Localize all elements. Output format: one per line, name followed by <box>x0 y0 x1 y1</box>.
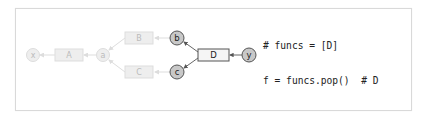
node-C: C <box>125 66 153 78</box>
code-line: # funcs = [D] <box>263 40 419 52</box>
code-line: ... <box>263 110 419 116</box>
svg-text:B: B <box>136 34 142 43</box>
node-a: a <box>97 49 110 62</box>
svg-text:C: C <box>136 68 142 77</box>
node-B: B <box>125 32 153 44</box>
node-D: D <box>198 49 229 61</box>
svg-text:y: y <box>246 50 251 60</box>
svg-text:a: a <box>101 51 106 60</box>
svg-text:c: c <box>175 67 180 77</box>
code-snippet: # funcs = [D] f = funcs.pop() # D ... fo… <box>263 17 419 116</box>
node-y: y <box>242 48 256 62</box>
node-A: A <box>55 49 83 61</box>
node-x: x <box>27 49 40 62</box>
node-c: c <box>170 65 184 79</box>
svg-text:x: x <box>31 51 36 60</box>
svg-text:b: b <box>174 33 179 43</box>
node-b: b <box>170 31 184 45</box>
svg-text:D: D <box>210 50 217 60</box>
code-line: f = funcs.pop() # D <box>263 75 419 87</box>
svg-text:A: A <box>66 51 72 60</box>
